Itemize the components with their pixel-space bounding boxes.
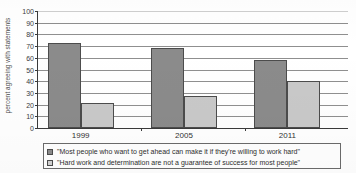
y-axis-tick — [35, 116, 38, 117]
y-axis-tick — [35, 11, 38, 12]
y-axis-tick-label: 90 — [26, 19, 34, 26]
legend-swatch-series-2 — [47, 160, 53, 166]
y-axis-title-container: percent agreeing with statements — [0, 8, 14, 130]
chart-legend: "Most people who want to get ahead can m… — [43, 143, 341, 169]
y-axis-tick-label: 100 — [22, 8, 34, 15]
y-axis-tick-label: 50 — [26, 66, 34, 73]
y-axis-tick-label: 20 — [26, 101, 34, 108]
y-axis-tick-label: 10 — [26, 113, 34, 120]
x-axis-tick-label-2005: 2005 — [175, 131, 193, 140]
gridline — [38, 34, 348, 35]
bar-chart-figure: percent agreeing with statements 0102030… — [0, 0, 356, 173]
y-axis-tick-label: 40 — [26, 78, 34, 85]
gridline — [38, 23, 348, 24]
legend-label-series-2: "Hard work and determination are not a g… — [57, 159, 300, 167]
y-axis-tick — [35, 34, 38, 35]
y-axis-tick — [35, 93, 38, 94]
y-axis-tick — [35, 70, 38, 71]
bar-2011-series-1 — [254, 60, 287, 128]
x-axis-tick-mark — [141, 128, 142, 131]
bar-1999-series-2 — [81, 103, 114, 128]
legend-item: "Most people who want to get ahead can m… — [47, 146, 337, 157]
bar-2005-series-1 — [151, 48, 184, 128]
legend-swatch-series-1 — [47, 149, 53, 155]
plot-inner: 0102030405060708090100 — [38, 11, 348, 128]
legend-label-series-1: "Most people who want to get ahead can m… — [57, 148, 300, 156]
gridline — [38, 11, 348, 12]
y-axis-tick — [35, 128, 38, 129]
y-axis-tick — [35, 58, 38, 59]
x-axis-tick-mark — [245, 128, 246, 131]
gridline — [38, 58, 348, 59]
plot-area: 0102030405060708090100 — [38, 11, 348, 128]
y-axis-tick-label: 80 — [26, 31, 34, 38]
x-axis-tick-label-2011: 2011 — [279, 131, 296, 140]
gridline — [38, 46, 348, 47]
x-axis-line — [38, 128, 348, 129]
y-axis-tick-label: 60 — [26, 54, 34, 61]
bar-2005-series-2 — [184, 96, 217, 128]
bar-2011-series-2 — [287, 81, 320, 128]
y-axis-tick — [35, 46, 38, 47]
y-axis-tick-label: 70 — [26, 43, 34, 50]
legend-item: "Hard work and determination are not a g… — [47, 157, 337, 168]
gridline — [38, 70, 348, 71]
y-axis-tick-label: 30 — [26, 89, 34, 96]
bar-1999-series-1 — [48, 43, 81, 128]
x-axis-tick-label-1999: 1999 — [72, 131, 90, 140]
y-axis-tick-label: 0 — [30, 125, 34, 132]
y-axis-tick — [35, 81, 38, 82]
y-axis-tick — [35, 105, 38, 106]
y-axis-title: percent agreeing with statements — [4, 5, 11, 127]
y-axis-tick — [35, 23, 38, 24]
